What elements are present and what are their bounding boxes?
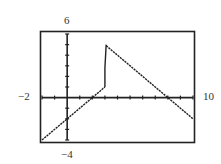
series-line-2	[106, 46, 193, 119]
series-line-0	[42, 87, 105, 140]
calculator-graph	[0, 0, 221, 164]
series-line-1	[105, 45, 106, 87]
window-frame	[41, 32, 195, 143]
